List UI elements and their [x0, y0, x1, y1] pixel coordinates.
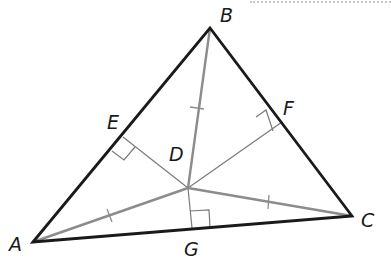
- segment-DG: [188, 188, 192, 228]
- right-angle-mark-E: [112, 147, 135, 160]
- label-B: B: [220, 4, 233, 26]
- label-G: G: [184, 238, 199, 260]
- label-F: F: [283, 97, 295, 119]
- triangle-ABC: [33, 28, 352, 242]
- segment-DF: [188, 122, 282, 188]
- right-angle-mark-F: [256, 110, 273, 131]
- label-D: D: [169, 143, 184, 165]
- scan-artifact-line: [250, 1, 391, 3]
- label-E: E: [107, 111, 119, 133]
- right-angle-mark-G: [190, 210, 210, 227]
- segment-DC: [188, 188, 352, 216]
- label-C: C: [361, 209, 375, 231]
- tick-mark-DB: [190, 107, 204, 109]
- label-A: A: [7, 233, 22, 255]
- diagram-canvas: A B C D E F G: [0, 0, 391, 266]
- triangle-diagram: A B C D E F G: [0, 0, 391, 266]
- tick-mark-DC: [268, 195, 269, 209]
